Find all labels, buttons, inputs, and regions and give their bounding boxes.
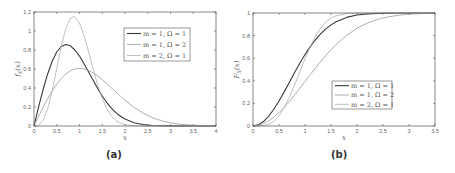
x-tick-label: 0.5 [275, 128, 283, 134]
x-tick-label: 0 [251, 128, 254, 134]
legend-entry-3: m = 2, Ω = 1 [351, 101, 394, 109]
y-tick-label: 0.8 [242, 33, 250, 39]
x-axis-label: x [123, 134, 127, 142]
y-tick-label: 0 [247, 123, 250, 129]
series-line-2 [34, 68, 216, 126]
x-tick-label: 3.5 [431, 128, 439, 134]
x-tick-label: 2.5 [379, 128, 387, 134]
x-tick-label: 2.5 [144, 128, 152, 134]
y-tick-label: 0.6 [242, 55, 250, 61]
x-tick-label: 3 [169, 128, 172, 134]
chart-panel-b: 00.511.522.533.500.20.40.60.81xFX(x)m = … [227, 0, 455, 173]
y-tick-label: 0.4 [242, 78, 250, 84]
y-axis-label: fX(x) [14, 61, 23, 78]
legend: m = 1, Ω = 1m = 1, Ω = 2m = 2, Ω = 1 [124, 28, 190, 61]
legend-entry-3: m = 2, Ω = 1 [143, 52, 186, 60]
y-tick-label: 0.6 [23, 66, 31, 72]
x-tick-label: 0 [32, 128, 35, 134]
y-tick-label: 0.8 [23, 47, 31, 53]
x-tick-label: 0.5 [53, 128, 61, 134]
x-tick-label: 1.5 [98, 128, 106, 134]
y-tick-label: 0.2 [23, 104, 31, 110]
y-tick-label: 1 [28, 28, 31, 34]
y-tick-label: 1.2 [23, 9, 31, 15]
x-tick-label: 3.5 [189, 128, 197, 134]
legend: m = 1, Ω = 1m = 1, Ω = 2m = 2, Ω = 1 [332, 81, 394, 109]
y-axis-label: FX(x) [233, 60, 242, 79]
caption-b: (b) [331, 149, 347, 160]
y-tick-label: 0.2 [242, 100, 250, 106]
legend-entry-1: m = 1, Ω = 1 [143, 30, 186, 38]
cdf-chart: 00.511.522.533.500.20.40.60.81xFX(x)m = … [227, 0, 455, 173]
legend-entry-1: m = 1, Ω = 1 [351, 82, 394, 90]
chart-panel-a: 00.511.522.533.5400.20.40.60.811.2xfX(x)… [0, 0, 228, 173]
y-tick-label: 0 [28, 123, 31, 129]
x-tick-label: 1 [78, 128, 81, 134]
x-tick-label: 1 [303, 128, 306, 134]
x-tick-label: 1.5 [327, 128, 335, 134]
y-tick-label: 1 [247, 10, 250, 16]
x-tick-label: 4 [214, 128, 217, 134]
caption-a: (a) [106, 149, 122, 160]
x-tick-label: 2 [355, 128, 358, 134]
x-axis-label: x [342, 134, 346, 142]
x-tick-label: 3 [407, 128, 410, 134]
y-tick-label: 0.4 [23, 85, 31, 91]
legend-entry-2: m = 1, Ω = 2 [143, 41, 186, 49]
pdf-chart: 00.511.522.533.5400.20.40.60.811.2xfX(x)… [0, 0, 228, 173]
legend-entry-2: m = 1, Ω = 2 [351, 91, 394, 99]
